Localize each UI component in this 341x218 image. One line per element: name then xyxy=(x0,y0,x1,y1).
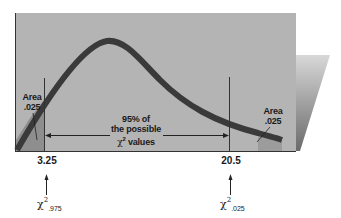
chi-right-sup: 2 xyxy=(227,196,231,204)
chi-left-sub: .975 xyxy=(48,205,62,212)
chi-square-diagram xyxy=(0,0,341,218)
right-area-label-line2: .025 xyxy=(258,116,288,126)
chi-left-symbol: χ xyxy=(37,198,44,211)
panel-3d-side xyxy=(295,55,330,151)
chi-right-sub: .025 xyxy=(231,205,245,212)
center-label-line1: 95% of xyxy=(105,114,167,124)
chi-notation-left: χ2.975 xyxy=(37,197,62,212)
center-label-line2: the possible xyxy=(105,124,167,134)
left-area-label-line2: .025 xyxy=(17,102,47,112)
critical-value-left: 3.25 xyxy=(32,155,62,166)
right-area-label-line1: Area xyxy=(258,106,288,116)
left-area-label: Area .025 xyxy=(17,92,47,112)
center-label: 95% of the possible χ2 values xyxy=(105,114,167,147)
right-area-label: Area .025 xyxy=(258,106,288,126)
chi-right-symbol: χ xyxy=(220,198,227,211)
center-label-line3: χ2 values xyxy=(105,134,167,147)
chi-left-sup: 2 xyxy=(44,196,48,204)
up-arrow-right-head xyxy=(229,174,233,180)
center-label-values: values xyxy=(126,137,155,147)
chi-notation-right: χ2.025 xyxy=(220,197,245,212)
critical-value-right: 20.5 xyxy=(216,155,246,166)
left-area-label-line1: Area xyxy=(17,92,47,102)
up-arrow-left-head xyxy=(45,174,49,180)
